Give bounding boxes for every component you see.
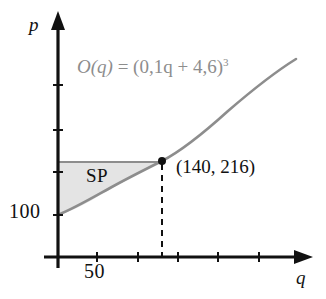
y-axis-arrow-icon (51, 11, 65, 30)
curve-formula: O(q) = (0,1q + 4,6)3 (77, 57, 229, 76)
plot-canvas (0, 0, 326, 299)
x-tick-label-50: 50 (84, 261, 105, 281)
formula-equals: = (118, 56, 129, 77)
y-axis-label: p (29, 15, 39, 34)
formula-expression-text: (0,1q + 4,6) (133, 56, 223, 77)
x-axis-arrow-icon (294, 250, 313, 264)
formula-function-name: O (77, 56, 91, 77)
formula-variable: (q) (91, 56, 113, 77)
formula-expression: (0,1q + 4,6)3 (133, 56, 228, 77)
marked-point-dot (158, 157, 166, 165)
supply-curve-figure: p q 100 50 SP (140, 216) O(q) = (0,1q + … (0, 0, 326, 299)
formula-exponent: 3 (223, 56, 229, 68)
y-tick-label-100: 100 (9, 201, 41, 221)
x-axis-label: q (296, 268, 306, 287)
shaded-region-label: SP (86, 166, 108, 185)
marked-point-label: (140, 216) (176, 157, 255, 176)
